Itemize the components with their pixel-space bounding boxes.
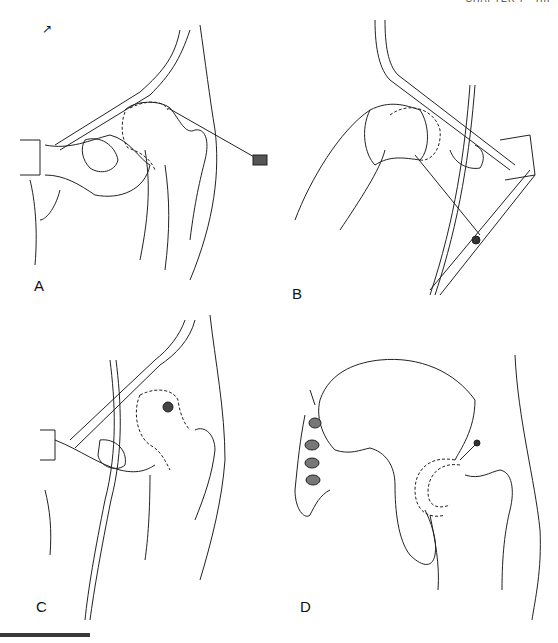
hip-illustration-b (280, 0, 558, 300)
panel-label-d: D (300, 598, 311, 615)
hip-illustration-a (0, 0, 280, 300)
figure-panel-a: A (0, 0, 280, 300)
hip-illustration-c (0, 300, 280, 630)
panel-label-a: A (34, 277, 44, 294)
figure-panel-c: C (0, 300, 280, 630)
bottom-rule (0, 633, 90, 637)
panel-label-c: C (36, 598, 47, 615)
figure-panel-b: B (280, 0, 558, 300)
pelvis-illustration-d (280, 300, 558, 630)
figure-panel-d: D (280, 300, 558, 630)
